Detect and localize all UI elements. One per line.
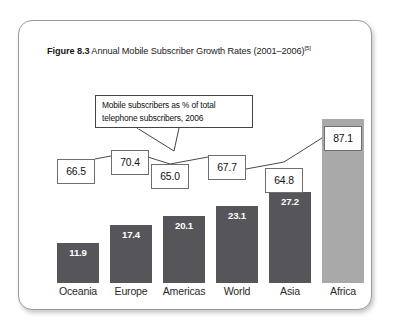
pct-value-europe: 70.4 [120, 157, 139, 168]
pct-box-africa: 87.1 [324, 126, 362, 151]
pct-value-asia: 64.8 [274, 175, 293, 186]
bar-asia: 27.2 [269, 192, 311, 283]
bar-world: 23.1 [216, 206, 258, 283]
callout-annotation: Mobile subscribers as % of total telepho… [95, 95, 253, 128]
figure-card: Figure 8.3 Annual Mobile Subscriber Grow… [18, 20, 372, 310]
pct-box-europe: 70.4 [111, 150, 149, 175]
pct-box-oceania: 66.5 [57, 159, 95, 184]
axis-label-world: World [211, 285, 263, 297]
bar-europe: 17.4 [110, 225, 152, 283]
bar-value-world: 23.1 [216, 210, 258, 221]
callout-line-2: telephone subscribers, 2006 [102, 112, 247, 125]
pct-box-asia: 64.8 [265, 168, 303, 193]
bar-value-europe: 17.4 [110, 229, 152, 240]
bar-value-americas: 20.1 [163, 220, 205, 231]
axis-label-americas: Americas [153, 285, 215, 297]
bar-value-asia: 27.2 [269, 196, 311, 207]
bar-oceania: 11.9 [57, 243, 99, 283]
chart-plot-area: 11.9 17.4 20.1 23.1 27.2 50.9 66.5 70.4 … [19, 21, 372, 310]
pct-value-americas: 65.0 [160, 171, 179, 182]
pct-box-world: 67.7 [208, 155, 246, 180]
pct-box-americas: 65.0 [151, 164, 189, 189]
pct-value-oceania: 66.5 [66, 166, 85, 177]
axis-label-asia: Asia [264, 285, 316, 297]
bar-americas: 20.1 [163, 216, 205, 283]
pct-value-africa: 87.1 [333, 133, 352, 144]
pct-value-world: 67.7 [217, 162, 236, 173]
axis-label-europe: Europe [103, 285, 159, 297]
axis-label-oceania: Oceania [49, 285, 107, 297]
callout-line-1: Mobile subscribers as % of total [102, 99, 247, 112]
axis-label-africa: Africa [317, 285, 369, 297]
bar-value-oceania: 11.9 [57, 247, 99, 258]
